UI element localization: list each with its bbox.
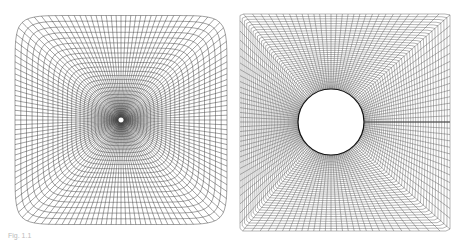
left-mesh-panel: [15, 16, 227, 225]
cylinder-hole: [298, 89, 364, 155]
figure-caption: Fig. 1.1: [8, 232, 31, 239]
mesh-figure: [0, 0, 466, 242]
right-mesh-panel: [240, 14, 450, 231]
